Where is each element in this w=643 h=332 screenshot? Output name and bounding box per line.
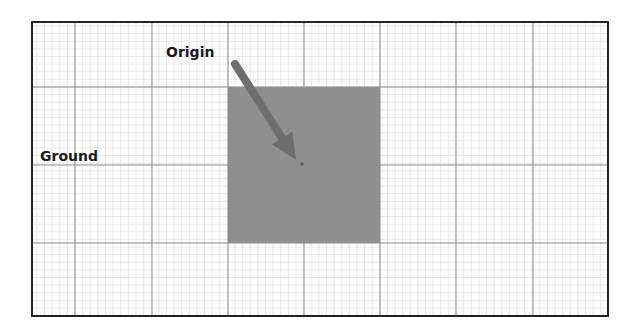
origin-point [301,163,304,166]
gray-square-object [228,87,380,243]
ground-label: Ground [40,148,98,164]
grid-diagram [0,0,643,332]
diagram-canvas: Origin Ground [0,0,643,332]
origin-label: Origin [166,44,214,60]
